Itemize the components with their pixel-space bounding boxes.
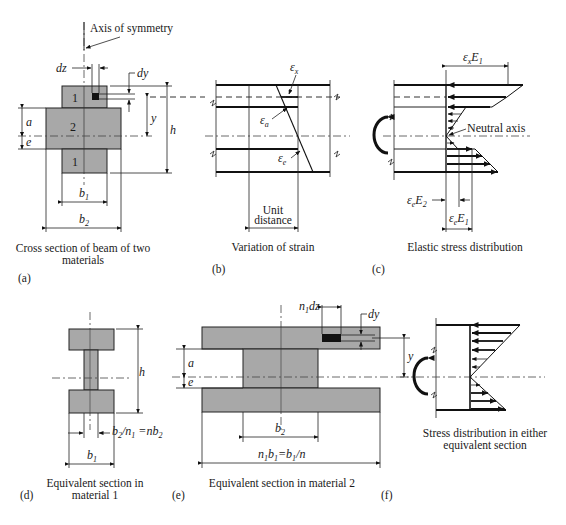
ee-E2-label: εeE2 xyxy=(407,193,427,209)
e-label-e: e xyxy=(188,375,194,389)
moment-arrow-c xyxy=(374,117,388,153)
b1-label: b1 xyxy=(79,186,89,202)
material-1-top xyxy=(62,86,107,108)
panel-a-cross-section: Axis of symmetry 1 2 1 dz dy y h xyxy=(16,22,176,285)
epsilon-e-label: εe xyxy=(278,151,287,167)
epsilon-a-label: εa xyxy=(260,113,269,129)
n1b1-label: n1b1=b1/n xyxy=(258,447,305,463)
ee-E1-label: εeE1 xyxy=(449,211,469,227)
b1-label-d: b1 xyxy=(87,448,97,464)
dy-label: dy xyxy=(137,66,149,80)
panel-d-equivalent-material-1: h b2/n1 =nb2 b1 Equivalent section in ma… xyxy=(20,312,162,502)
a-label-e: a xyxy=(188,356,194,370)
e-label: e xyxy=(26,135,32,149)
element-dA-e xyxy=(322,334,341,342)
b2-label-e: b2 xyxy=(275,421,285,437)
h-label: h xyxy=(170,123,176,137)
caption-f-line2: equivalent section xyxy=(443,439,527,452)
neutral-axis-label: Neutral axis xyxy=(467,121,526,135)
panel-tag-f: (f) xyxy=(381,489,393,502)
caption-b: Variation of strain xyxy=(231,241,314,253)
caption-c: Elastic stress distribution xyxy=(407,241,523,253)
panel-tag-d: (d) xyxy=(20,489,34,502)
b2-label: b2 xyxy=(79,212,89,228)
a-label: a xyxy=(26,115,32,129)
ex-E1-label: εxE1 xyxy=(463,50,483,66)
panel-f-stress-equivalent: Stress distribution in either equivalent… xyxy=(381,318,547,502)
panel-c-elastic-stress: εxE1 Neutral axis εeE2 εeE1 Elastic stre… xyxy=(372,50,530,276)
y-label: y xyxy=(150,111,157,125)
region-1-bottom-label: 1 xyxy=(72,155,78,169)
caption-f-line1: Stress distribution in either xyxy=(423,427,547,439)
caption-a-line2: materials xyxy=(62,254,105,266)
material-2-middle xyxy=(46,108,121,149)
caption-d-line2: material 1 xyxy=(72,489,119,501)
n1dz-label: n1dz xyxy=(299,299,320,315)
caption-a-line1: Cross section of beam of two xyxy=(16,242,151,254)
caption-e: Equivalent section in material 2 xyxy=(209,477,356,490)
moment-arrow-f xyxy=(414,358,428,394)
y-label-e: y xyxy=(407,349,414,363)
panel-e-equivalent-material-2: n1dz dy y a e b2 n1b1=b1/n Equivalent se… xyxy=(172,299,414,502)
dy-label-e: dy xyxy=(368,307,380,321)
region-1-top-label: 1 xyxy=(72,91,78,105)
panel-b-strain: εx εa εe Unit distance Variation of stra… xyxy=(205,60,350,276)
material-1-bottom xyxy=(62,149,107,173)
panel-tag-c: (c) xyxy=(372,263,385,276)
panel-tag-a: (a) xyxy=(18,272,31,285)
web-width-label: b2/n1 =nb2 xyxy=(112,424,162,440)
panel-tag-b: (b) xyxy=(212,263,226,276)
axis-of-symmetry-label: Axis of symmetry xyxy=(90,22,173,35)
element-dA xyxy=(92,93,99,100)
axis-leader-arrow xyxy=(86,37,120,48)
epsilon-x-label: εx xyxy=(290,60,299,76)
unit-label-line2: distance xyxy=(254,214,292,226)
region-2-label: 2 xyxy=(70,120,76,134)
dz-label: dz xyxy=(56,61,67,75)
h-label-d: h xyxy=(139,365,145,379)
composite-beam-figure: Axis of symmetry 1 2 1 dz dy y h xyxy=(0,0,566,525)
panel-tag-e: (e) xyxy=(172,489,185,502)
